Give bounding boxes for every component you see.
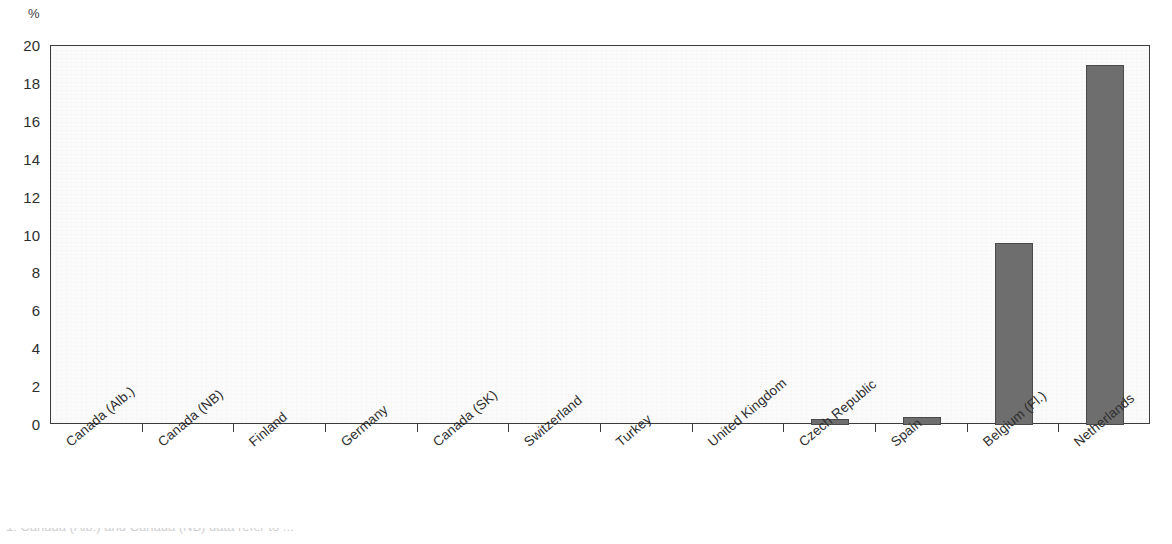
paper-texture	[51, 46, 1149, 423]
y-tick-label: 18	[0, 74, 40, 91]
x-tick-mark	[233, 424, 234, 432]
x-tick-mark	[325, 424, 326, 432]
x-tick-mark	[417, 424, 418, 432]
footnote-text: 1. Canada (Alb.) and Canada (NB) data re…	[6, 528, 294, 534]
x-tick-mark	[508, 424, 509, 432]
y-tick-label: 2	[0, 378, 40, 395]
y-axis-unit-label: %	[28, 6, 40, 21]
x-tick-mark	[692, 424, 693, 432]
x-tick-mark	[1058, 424, 1059, 432]
x-tick-mark	[875, 424, 876, 432]
footnote-strip: 1. Canada (Alb.) and Canada (NB) data re…	[0, 528, 1172, 544]
x-tick-mark	[600, 424, 601, 432]
y-tick-label: 0	[0, 416, 40, 433]
bar	[1086, 65, 1124, 425]
x-tick-mark	[967, 424, 968, 432]
y-tick-label: 6	[0, 302, 40, 319]
y-tick-label: 4	[0, 340, 40, 357]
y-tick-label: 12	[0, 188, 40, 205]
plot-area	[50, 45, 1150, 424]
y-tick-label: 14	[0, 150, 40, 167]
y-tick-label: 10	[0, 226, 40, 243]
y-tick-label: 8	[0, 264, 40, 281]
y-tick-label: 20	[0, 37, 40, 54]
chart-figure: % 20181614121086420 Canada (Alb.)Canada …	[0, 0, 1172, 544]
x-tick-mark	[142, 424, 143, 432]
x-tick-mark	[783, 424, 784, 432]
y-tick-label: 16	[0, 112, 40, 129]
